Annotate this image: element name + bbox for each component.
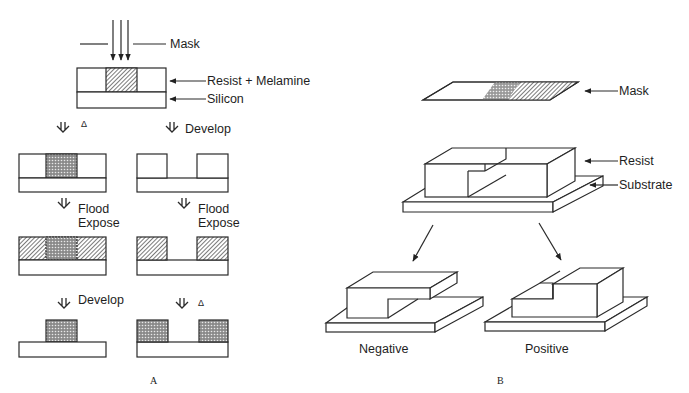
initial-wafer-stack <box>77 68 166 108</box>
step-flood-right: Flood <box>198 202 229 216</box>
step-expose-left: Expose <box>78 216 120 230</box>
step-expose-right: Expose <box>198 216 240 230</box>
diagram-canvas <box>0 0 689 393</box>
negative-result <box>326 272 483 332</box>
baked-wafer-left <box>19 154 106 192</box>
mask-plate <box>423 82 578 100</box>
step-bake-delta-1: Δ <box>81 117 87 131</box>
final-wafer-right <box>137 320 228 357</box>
exposure-arrows-icon <box>113 20 128 60</box>
process-arrow-icon <box>57 122 190 308</box>
caption-a: A <box>150 375 157 386</box>
label-resist: Resist <box>619 154 654 168</box>
label-negative: Negative <box>359 342 408 356</box>
positive-result <box>485 268 647 331</box>
resist-on-substrate <box>403 148 603 212</box>
step-flood-left: Flood <box>78 202 109 216</box>
step-develop-2: Develop <box>78 293 124 307</box>
flood-exposed-wafer-right <box>137 237 228 275</box>
label-mask-b: Mask <box>619 84 649 98</box>
step-develop-1: Develop <box>185 122 231 136</box>
flood-exposed-wafer-left <box>19 237 106 275</box>
label-mask-a: Mask <box>170 37 200 51</box>
final-wafer-left <box>19 320 106 357</box>
label-positive: Positive <box>525 342 569 356</box>
developed-wafer-right <box>137 154 228 192</box>
label-resist-melamine: Resist + Melamine <box>207 74 310 88</box>
step-bake-delta-2: Δ <box>198 296 204 310</box>
label-silicon: Silicon <box>207 92 244 106</box>
caption-b: B <box>497 375 504 386</box>
label-substrate: Substrate <box>619 178 673 192</box>
